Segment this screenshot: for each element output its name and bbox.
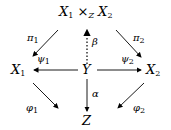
label-psi2: ψ2 [121, 53, 134, 66]
psi1-base: ψ [37, 53, 45, 64]
product-x2-base: X [98, 4, 107, 19]
label-alpha: α [92, 88, 99, 99]
y-base: Y [82, 62, 91, 77]
phi1-base: φ [26, 102, 33, 113]
product-x1-sub: 1 [68, 11, 73, 20]
phi2-sub: 2 [140, 106, 145, 115]
product-x2-sub: 2 [107, 11, 112, 20]
label-pi2: π2 [133, 32, 145, 45]
node-product: X1 ×Z X2 [59, 4, 112, 20]
pi2-base: π [133, 32, 140, 43]
label-psi1: ψ1 [37, 53, 50, 66]
phi2-base: φ [133, 102, 140, 113]
node-z: Z [82, 113, 91, 128]
label-beta: β [92, 36, 98, 47]
node-x1: X1 [11, 62, 25, 78]
label-phi2: φ2 [133, 102, 145, 115]
node-y: Y [82, 62, 91, 77]
psi1-sub: 1 [45, 57, 50, 66]
product-times: × [78, 4, 89, 19]
beta-base: β [92, 36, 98, 47]
label-pi1: π1 [27, 32, 39, 45]
alpha-base: α [92, 88, 99, 99]
label-phi1: φ1 [26, 102, 38, 115]
phi1-sub: 1 [33, 106, 38, 115]
z-base: Z [82, 113, 91, 128]
product-x1-base: X [59, 4, 68, 19]
x1-sub: 1 [20, 69, 25, 78]
pi1-sub: 1 [34, 36, 39, 45]
x2-base: X [146, 62, 155, 77]
psi2-sub: 2 [129, 57, 134, 66]
pi2-sub: 2 [140, 36, 145, 45]
psi2-base: ψ [121, 53, 129, 64]
x2-sub: 2 [155, 69, 160, 78]
x1-base: X [11, 62, 20, 77]
node-x2: X2 [146, 62, 160, 78]
pi1-base: π [27, 32, 34, 43]
product-z-sub: Z [88, 11, 94, 20]
